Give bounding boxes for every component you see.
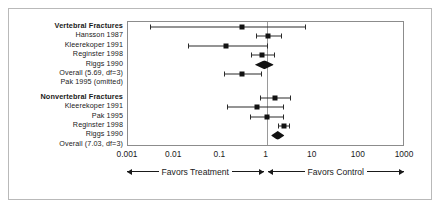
point-estimate-marker[interactable]	[240, 72, 245, 77]
axis-tick-label: 10	[307, 149, 316, 159]
study-row	[128, 121, 403, 130]
x-axis-tick-labels: 0.0010.010.11101001000	[127, 149, 404, 163]
study-row	[128, 93, 403, 102]
study-label-column: Vertebral FracturesHansson 1987Kleerekop…	[9, 21, 127, 148]
confidence-interval-line	[150, 27, 305, 28]
confidence-interval-cap	[274, 53, 275, 58]
summary-row	[128, 60, 403, 69]
confidence-interval-cap	[188, 43, 189, 48]
point-estimate-marker[interactable]	[282, 124, 287, 129]
point-estimate-marker[interactable]	[265, 114, 270, 119]
axis-tick-label: 1	[263, 149, 268, 159]
study-row	[128, 32, 403, 41]
study-row	[128, 112, 403, 121]
confidence-interval-cap	[224, 72, 225, 77]
summary-diamond	[271, 131, 284, 140]
confidence-interval-line	[188, 45, 268, 46]
confidence-interval-cap	[260, 95, 261, 100]
study-label[interactable]: Riggs 1990	[9, 129, 127, 138]
confidence-interval-cap	[290, 95, 291, 100]
confidence-interval-cap	[261, 72, 262, 77]
study-label[interactable]: Overall (5.69, df=3)	[9, 68, 127, 77]
study-label[interactable]: Riggs 1990	[9, 59, 127, 68]
favors-treatment-label: Favors Treatment	[162, 167, 229, 177]
forest-plot-figure: Vertebral FracturesHansson 1987Kleerekop…	[8, 8, 432, 200]
study-label[interactable]: Pak 1995	[9, 111, 127, 120]
point-estimate-marker[interactable]	[273, 95, 278, 100]
favors-control-group: Favors Control	[268, 165, 405, 178]
study-row	[128, 22, 403, 31]
confidence-interval-cap	[283, 105, 284, 110]
point-estimate-marker[interactable]	[254, 105, 259, 110]
study-label[interactable]: Kleerekoper 1991	[9, 101, 127, 110]
group-heading: Vertebral Fractures	[9, 21, 127, 30]
point-estimate-marker[interactable]	[240, 25, 245, 30]
study-row	[128, 51, 403, 60]
study-label[interactable]: Reginster 1998	[9, 49, 127, 58]
right-arrow-icon	[367, 168, 404, 175]
study-label[interactable]: Reginster 1998	[9, 120, 127, 129]
confidence-interval-cap	[251, 53, 252, 58]
point-estimate-marker[interactable]	[223, 43, 228, 48]
study-label[interactable]: Hansson 1987	[9, 30, 127, 39]
favors-control-label: Favors Control	[308, 167, 364, 177]
study-label[interactable]: Overall (7.03, df=3)	[9, 139, 127, 148]
confidence-interval-cap	[281, 34, 282, 39]
left-arrow-icon	[268, 168, 305, 175]
confidence-interval-cap	[278, 124, 279, 129]
confidence-interval-cap	[150, 25, 151, 30]
study-label[interactable]: Pak 1995 (omitted)	[9, 77, 127, 86]
confidence-interval-cap	[305, 25, 306, 30]
confidence-interval-cap	[267, 43, 268, 48]
study-row	[128, 69, 403, 78]
left-arrow-icon	[127, 168, 159, 175]
axis-tick-label: 100	[351, 149, 365, 159]
point-estimate-marker[interactable]	[266, 34, 271, 39]
point-estimate-marker[interactable]	[259, 53, 264, 58]
confidence-interval-cap	[283, 114, 284, 119]
summary-row	[128, 131, 403, 140]
confidence-interval-cap	[250, 114, 251, 119]
study-row	[128, 103, 403, 112]
axis-tick-label: 0.01	[165, 149, 181, 159]
summary-diamond	[255, 60, 274, 69]
axis-tick-label: 1000	[395, 149, 414, 159]
right-arrow-icon	[232, 168, 264, 175]
study-row	[128, 41, 403, 50]
favors-treatment-group: Favors Treatment	[127, 165, 264, 178]
confidence-interval-cap	[289, 124, 290, 129]
axis-tick-label: 0.001	[117, 149, 138, 159]
confidence-interval-cap	[256, 34, 257, 39]
favors-direction-bar: Favors Treatment Favors Control	[127, 165, 404, 179]
forest-plot-area	[127, 21, 404, 146]
group-heading: Nonvertebral Fractures	[9, 92, 127, 101]
study-label[interactable]: Kleerekoper 1991	[9, 40, 127, 49]
confidence-interval-cap	[227, 105, 228, 110]
axis-tick-label: 0.1	[214, 149, 226, 159]
